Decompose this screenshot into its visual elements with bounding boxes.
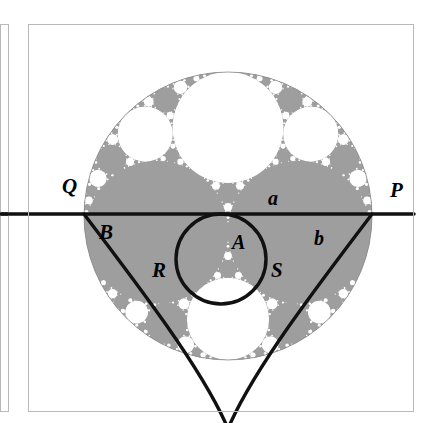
gasket-circle: [265, 168, 266, 169]
gasket-circle: [217, 189, 218, 190]
gasket-circle: [232, 277, 233, 278]
gasket-circle: [273, 94, 275, 96]
gasket-circle: [227, 243, 229, 245]
gasket-circle: [269, 313, 271, 315]
gasket-circle: [231, 202, 234, 205]
gasket-circle: [120, 147, 121, 148]
gasket-circle: [265, 295, 266, 296]
gasket-circle: [170, 143, 175, 148]
gasket-circle: [156, 159, 158, 161]
gasket-circle: [278, 88, 303, 113]
gasket-circle: [367, 210, 368, 211]
gasket-circle: [129, 157, 130, 158]
gasket-circle: [276, 155, 277, 156]
gasket-circle: [175, 108, 176, 109]
gasket-circle: [264, 351, 265, 352]
gasket-circle: [238, 190, 241, 193]
gasket-circle: [172, 110, 175, 113]
gasket-circle: [185, 313, 187, 315]
gasket-circle: [242, 276, 243, 277]
gasket-circle: [273, 164, 274, 165]
gasket-circle: [187, 86, 189, 88]
gasket-circle: [268, 326, 269, 327]
gasket-circle: [177, 304, 178, 305]
gasket-circle: [91, 184, 92, 185]
gasket-circle: [185, 297, 187, 299]
gasket-circle: [138, 161, 140, 163]
gasket-circle: [116, 143, 119, 146]
gasket-circle: [268, 88, 269, 89]
gasket-circle: [132, 299, 134, 301]
gasket-circle: [116, 134, 118, 136]
gasket-circle: [233, 276, 235, 278]
gasket-circle: [304, 106, 305, 107]
gasket-circle: [249, 354, 250, 355]
gasket-circle: [256, 78, 257, 79]
gasket-circle: [308, 302, 311, 305]
gasket-circle: [89, 204, 91, 206]
gasket-circle: [233, 260, 234, 261]
gasket-circle: [314, 161, 315, 162]
gasket-circle: [345, 174, 350, 179]
gasket-circle: [272, 309, 273, 310]
gasket-circle: [265, 86, 266, 87]
gasket-circle: [172, 126, 173, 127]
gasket-circle: [186, 327, 187, 328]
gasket-circle: [311, 105, 313, 107]
gasket-circle: [226, 248, 230, 252]
gasket-circle: [224, 252, 232, 260]
gasket-circle: [247, 179, 250, 182]
gasket-circle: [321, 300, 322, 301]
gasket-circle: [114, 298, 115, 299]
gasket-circle: [275, 156, 277, 158]
gasket-circle: [338, 295, 339, 296]
gasket-circle: [165, 149, 179, 163]
gasket-circle: [206, 354, 207, 355]
gasket-circle: [316, 106, 317, 107]
gasket-circle: [262, 77, 270, 85]
gasket-circle: [187, 278, 269, 360]
gasket-circle: [227, 245, 230, 248]
gasket-circle: [234, 182, 237, 185]
gasket-circle: [176, 149, 177, 150]
gasket-circle: [274, 94, 278, 98]
gasket-circle: [182, 336, 183, 337]
gasket-circle: [327, 166, 328, 167]
gasket-circle: [165, 160, 167, 162]
gasket-circle: [258, 346, 259, 347]
gasket-circle: [282, 141, 285, 144]
gasket-circle: [346, 144, 347, 145]
gasket-circle: [286, 148, 287, 149]
gasket-circle: [164, 112, 167, 115]
gasket-circle: [128, 166, 129, 167]
gasket-circle: [145, 323, 146, 324]
gasket-circle: [134, 160, 138, 164]
gasket-circle: [182, 164, 183, 165]
gasket-circle: [85, 196, 93, 204]
gasket-circle: [189, 168, 190, 169]
gasket-circle: [277, 149, 291, 163]
gasket-circle: [98, 168, 100, 170]
gasket-circle: [227, 221, 228, 222]
gasket-circle: [98, 190, 99, 191]
gasket-circle: [233, 201, 234, 202]
gasket-circle: [147, 303, 148, 304]
gasket-circle: [236, 182, 244, 190]
gasket-circle: [138, 323, 139, 324]
gasket-circle: [214, 190, 215, 191]
gasket-circle: [300, 160, 301, 161]
gasket-circle: [117, 129, 118, 130]
gasket-circle: [330, 164, 331, 165]
gasket-circle: [125, 165, 128, 168]
gasket-circle: [268, 327, 269, 328]
gasket-circle: [165, 154, 166, 155]
gasket-circle: [88, 210, 89, 211]
gasket-circle: [218, 183, 238, 203]
gasket-circle: [172, 301, 174, 303]
gasket-circle: [128, 302, 129, 303]
gasket-circle: [282, 113, 283, 114]
gasket-circle: [227, 240, 228, 241]
gasket-circle: [347, 178, 349, 180]
gasket-circle: [322, 299, 324, 301]
gasket-circle: [219, 182, 220, 183]
